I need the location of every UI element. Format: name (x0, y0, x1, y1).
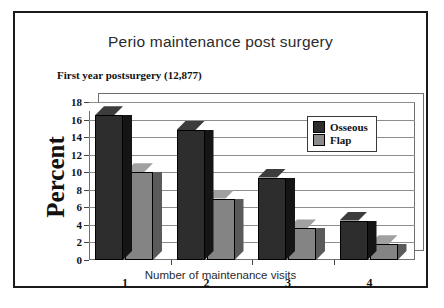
y-axis-tick-label: 16 (42, 114, 89, 126)
chart-legend: OsseousFlap (307, 116, 377, 152)
y-axis-tick-mark (84, 102, 89, 103)
bar-osseous-3 (258, 178, 286, 261)
x-axis-tick-mark (334, 260, 335, 265)
y-axis-tick-mark (84, 242, 89, 243)
y-axis-tick-mark (84, 225, 89, 226)
y-axis-tick-mark (84, 155, 89, 156)
x-axis-title: Number of maintenance visits (15, 269, 426, 281)
y-axis-tick-label: 14 (42, 131, 89, 143)
y-axis-tick-label: 12 (42, 149, 89, 161)
bar-osseous-2 (177, 130, 205, 260)
y-axis-tick-label: 18 (42, 96, 89, 108)
y-axis-tick-mark (84, 190, 89, 191)
y-axis-tick-mark (84, 120, 89, 121)
chart-frame: Perio maintenance post surgery First yea… (13, 11, 428, 288)
x-axis-tick-mark (171, 260, 172, 265)
legend-item-osseous: Osseous (313, 121, 368, 133)
y-axis-tick-label: 4 (42, 219, 89, 231)
legend-label: Osseous (330, 121, 368, 133)
bar-osseous-1 (95, 115, 123, 260)
legend-label: Flap (330, 134, 351, 146)
legend-swatch-icon (313, 121, 325, 133)
x-axis-tick-mark (252, 260, 253, 265)
y-axis-tick-label: 10 (42, 166, 89, 178)
y-axis-tick-label: 2 (42, 236, 89, 248)
chart-title: Perio maintenance post surgery (15, 33, 426, 51)
legend-swatch-icon (313, 134, 325, 146)
y-axis-tick-label: 0 (42, 254, 89, 266)
gridline (89, 102, 415, 103)
y-axis-tick-label: 6 (42, 201, 89, 213)
y-axis-tick-mark (84, 207, 89, 208)
gridline (89, 155, 415, 156)
y-axis-tick-mark (84, 172, 89, 173)
plot-left-wall (89, 102, 98, 111)
y-axis-tick-mark (84, 137, 89, 138)
chart-subtitle: First year postsurgery (12,877) (57, 69, 202, 81)
bar-osseous-4 (340, 221, 368, 261)
y-axis-tick-label: 8 (42, 184, 89, 196)
legend-item-flap: Flap (313, 134, 368, 146)
